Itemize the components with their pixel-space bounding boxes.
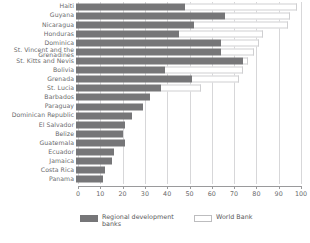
chart-row: Panama (0, 175, 310, 184)
x-axis-tick (279, 186, 280, 189)
bar-track (76, 75, 310, 84)
bar-track (76, 166, 310, 175)
bar-track (76, 129, 310, 138)
chart-row: El Salvador (0, 120, 310, 129)
bar-segment-world-bank (165, 67, 243, 74)
bar-segment-regional-development-banks (76, 103, 143, 110)
x-axis-tick-label: 90 (275, 190, 283, 198)
chart-row: Guatemala (0, 138, 310, 147)
chart-row: Nicaragua (0, 20, 310, 29)
x-axis: 0102030405060708090100 (78, 186, 301, 202)
chart-row: Ecuador (0, 148, 310, 157)
chart-row: Belize (0, 129, 310, 138)
chart-row: Costa Rica (0, 166, 310, 175)
bar-segment-regional-development-banks (76, 158, 112, 165)
bar-segment-world-bank (225, 12, 290, 19)
bar-segment-regional-development-banks (76, 12, 225, 19)
bar-segment-regional-development-banks (76, 85, 161, 92)
category-label: Nicaragua (0, 22, 76, 28)
bar-segment-world-bank (161, 85, 201, 92)
bar-track (76, 66, 310, 75)
x-axis-tick (123, 186, 124, 189)
category-label: Bolivia (0, 67, 76, 73)
x-axis-tick-label: 20 (119, 190, 127, 198)
x-axis-tick (301, 186, 302, 189)
x-axis-tick-label: 100 (295, 190, 307, 198)
chart-row: Barbados (0, 93, 310, 102)
x-axis-tick-label: 10 (96, 190, 104, 198)
category-label: Costa Rica (0, 167, 76, 173)
legend-swatch-world-bank (194, 215, 212, 222)
bar-track (76, 138, 310, 147)
x-axis-tick (100, 186, 101, 189)
bar-segment-world-bank (185, 3, 297, 10)
bar-track (76, 84, 310, 93)
x-axis-tick-label: 80 (252, 190, 260, 198)
bar-segment-world-bank (221, 39, 259, 46)
category-label: Grenada (0, 76, 76, 82)
x-axis-tick (145, 186, 146, 189)
bar-segment-regional-development-banks (76, 58, 243, 65)
bar-track (76, 175, 310, 184)
bar-segment-world-bank (221, 49, 254, 56)
x-axis-tick (190, 186, 191, 189)
x-axis-tick (234, 186, 235, 189)
chart-row: St. Kitts and Nevis (0, 57, 310, 66)
chart-row: Dominican Republic (0, 111, 310, 120)
category-label: Barbados (0, 94, 76, 100)
bar-segment-regional-development-banks (76, 130, 123, 137)
x-axis-tick-label: 60 (208, 190, 216, 198)
chart-row: St. Lucia (0, 84, 310, 93)
bar-segment-world-bank (194, 21, 288, 28)
bar-track (76, 47, 310, 56)
bar-segment-world-bank (243, 58, 247, 65)
x-axis-tick (167, 186, 168, 189)
category-label: Panama (0, 176, 76, 182)
bar-track (76, 11, 310, 20)
chart-row: Grenada (0, 75, 310, 84)
category-label: Dominican Republic (0, 112, 76, 118)
bar-segment-regional-development-banks (76, 112, 132, 119)
chart-row: Jamaica (0, 157, 310, 166)
chart-legend: Regional development banks World Bank (80, 214, 310, 240)
bar-track (76, 157, 310, 166)
category-label: Guyana (0, 12, 76, 18)
bar-segment-regional-development-banks (76, 3, 185, 10)
chart-row: Haiti (0, 2, 310, 11)
bar-track (76, 111, 310, 120)
category-label: Honduras (0, 31, 76, 37)
x-axis-tick-label: 0 (76, 190, 80, 198)
x-axis-tick-label: 70 (230, 190, 238, 198)
chart-row: Guyana (0, 11, 310, 20)
category-label: Guatemala (0, 140, 76, 146)
x-axis-tick-label: 40 (163, 190, 171, 198)
horizontal-stacked-bar-chart: HaitiGuyanaNicaraguaHondurasDominicaSt. … (0, 0, 310, 243)
category-label: Paraguay (0, 103, 76, 109)
category-label: Ecuador (0, 149, 76, 155)
category-label: Belize (0, 131, 76, 137)
category-label: Haiti (0, 3, 76, 9)
bar-track (76, 148, 310, 157)
bar-track (76, 120, 310, 129)
plot-area: HaitiGuyanaNicaraguaHondurasDominicaSt. … (0, 2, 310, 186)
bar-segment-regional-development-banks (76, 67, 165, 74)
bar-segment-regional-development-banks (76, 94, 150, 101)
bar-segment-regional-development-banks (76, 21, 194, 28)
bar-track (76, 93, 310, 102)
bar-segment-regional-development-banks (76, 121, 125, 128)
x-axis-tick (256, 186, 257, 189)
bar-rows: HaitiGuyanaNicaraguaHondurasDominicaSt. … (0, 2, 310, 184)
category-label: St. Lucia (0, 85, 76, 91)
x-axis-tick-label: 30 (141, 190, 149, 198)
legend-label-regional-development-banks: Regional development banks (102, 214, 180, 229)
chart-row: Bolivia (0, 66, 310, 75)
legend-item-world-bank: World Bank (194, 214, 252, 222)
bar-segment-regional-development-banks (76, 49, 221, 56)
x-axis-tick (78, 186, 79, 189)
legend-swatch-regional-development-banks (80, 215, 98, 222)
category-label: St. Kitts and Nevis (0, 58, 76, 64)
bar-segment-regional-development-banks (76, 76, 192, 83)
bar-segment-regional-development-banks (76, 139, 125, 146)
legend-label-world-bank: World Bank (216, 214, 252, 221)
bar-track (76, 102, 310, 111)
